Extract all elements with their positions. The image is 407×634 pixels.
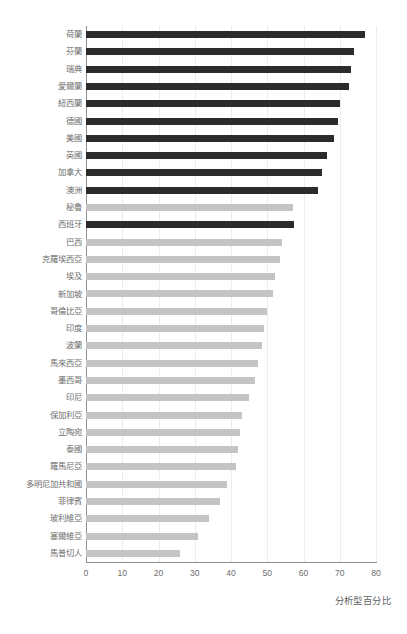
bar-row (86, 164, 376, 181)
x-tick-label: 20 (154, 568, 164, 578)
x-tick-label: 50 (262, 568, 272, 578)
category-label: 西班牙 (0, 219, 82, 229)
bar-row (86, 285, 376, 302)
bar (86, 463, 236, 470)
category-label: 加拿大 (0, 167, 82, 177)
category-label: 馬來西亞 (0, 358, 82, 368)
bar-row (86, 320, 376, 337)
category-label: 羅馬尼亞 (0, 461, 82, 471)
bar-row (86, 545, 376, 562)
bar-row (86, 112, 376, 129)
bar-row (86, 372, 376, 389)
bar-row (86, 476, 376, 493)
bar-row (86, 441, 376, 458)
x-axis-line (86, 562, 377, 563)
bar-row (86, 303, 376, 320)
category-label: 印度 (0, 323, 82, 333)
bar-row (86, 182, 376, 199)
bar (86, 204, 293, 211)
category-label: 澳洲 (0, 185, 82, 195)
bar (86, 515, 209, 522)
bar (86, 412, 242, 419)
bar (86, 31, 365, 38)
x-tick-label: 10 (117, 568, 127, 578)
bar-row (86, 527, 376, 544)
bar-row (86, 337, 376, 354)
bar (86, 273, 275, 280)
category-label: 瑞典 (0, 64, 82, 74)
x-tick-label: 80 (371, 568, 381, 578)
bar-row (86, 78, 376, 95)
bar (86, 394, 249, 401)
bar (86, 118, 338, 125)
category-label: 墨西哥 (0, 375, 82, 385)
bar (86, 239, 282, 246)
category-label: 印尼 (0, 392, 82, 402)
bar (86, 290, 273, 297)
bar-row (86, 251, 376, 268)
category-label: 芬蘭 (0, 46, 82, 56)
category-axis-labels: 荷蘭芬蘭瑞典愛爾蘭紐西蘭德國美國英國加拿大澳洲秘魯西班牙巴西克羅埃西亞埃及新加坡… (0, 26, 82, 562)
bar (86, 256, 280, 263)
category-label: 立陶宛 (0, 427, 82, 437)
x-tick-label: 40 (226, 568, 236, 578)
category-label: 新加坡 (0, 289, 82, 299)
category-label: 菲律賓 (0, 496, 82, 506)
x-tick-label: 0 (84, 568, 89, 578)
category-label: 荷蘭 (0, 29, 82, 39)
plot-area (86, 26, 376, 562)
bar-row (86, 268, 376, 285)
category-label: 保加利亞 (0, 410, 82, 420)
x-tick-label: 30 (190, 568, 200, 578)
category-label: 泰國 (0, 444, 82, 454)
bar-row (86, 147, 376, 164)
category-label: 德國 (0, 116, 82, 126)
category-label: 愛爾蘭 (0, 81, 82, 91)
bar-row (86, 510, 376, 527)
bar-chart: 荷蘭芬蘭瑞典愛爾蘭紐西蘭德國美國英國加拿大澳洲秘魯西班牙巴西克羅埃西亞埃及新加坡… (0, 0, 407, 634)
bar (86, 325, 264, 332)
category-label: 埃及 (0, 271, 82, 281)
x-tick-label: 60 (299, 568, 309, 578)
bar (86, 446, 238, 453)
gridline (376, 26, 377, 562)
bar (86, 360, 258, 367)
bar (86, 550, 180, 557)
bar (86, 481, 227, 488)
category-label: 克羅埃西亞 (0, 254, 82, 264)
bar (86, 48, 354, 55)
bar (86, 533, 198, 540)
bar-row (86, 26, 376, 43)
bar-row (86, 95, 376, 112)
category-label: 塞爾維亞 (0, 531, 82, 541)
bar-row (86, 43, 376, 60)
bar (86, 308, 267, 315)
bar (86, 100, 340, 107)
bar-row (86, 216, 376, 233)
bar (86, 187, 318, 194)
x-tick-label: 70 (335, 568, 345, 578)
bar-row (86, 61, 376, 78)
bar (86, 83, 349, 90)
category-label: 英國 (0, 150, 82, 160)
category-label: 秘魯 (0, 202, 82, 212)
category-label: 馬普切人 (0, 548, 82, 558)
bar-row (86, 458, 376, 475)
bar (86, 377, 255, 384)
category-label: 巴西 (0, 237, 82, 247)
bar-row (86, 424, 376, 441)
bar-row (86, 493, 376, 510)
bar (86, 429, 240, 436)
bar-row (86, 130, 376, 147)
bar (86, 169, 322, 176)
x-axis-title: 分析型百分比 (335, 593, 391, 607)
category-label: 玻利維亞 (0, 513, 82, 523)
bar-row (86, 199, 376, 216)
bar (86, 135, 334, 142)
bar-row (86, 389, 376, 406)
bar-row (86, 355, 376, 372)
category-label: 波蘭 (0, 340, 82, 350)
bar (86, 498, 220, 505)
bar-row (86, 406, 376, 423)
category-label: 紐西蘭 (0, 98, 82, 108)
